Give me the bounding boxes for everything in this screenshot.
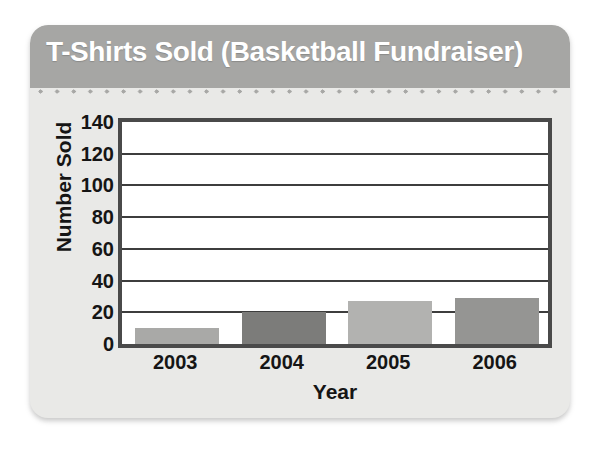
x-tick-label: 2004: [229, 352, 336, 372]
y-tick-label: 100: [68, 175, 114, 195]
y-tick-label: 0: [68, 334, 114, 354]
gridline: [122, 153, 548, 155]
gridline: [122, 248, 548, 250]
x-axis-tick-labels: 2003200420052006: [118, 352, 552, 378]
y-tick-label: 80: [68, 207, 114, 227]
bar: [242, 312, 326, 344]
y-tick-label: 60: [68, 239, 114, 259]
y-tick-label: 20: [68, 302, 114, 322]
x-tick-label: 2006: [442, 352, 549, 372]
gridline: [122, 184, 548, 186]
x-axis-title: Year: [118, 380, 552, 404]
dotted-divider: [38, 89, 562, 94]
gridline: [122, 216, 548, 218]
plot-area: [122, 122, 548, 344]
bar: [348, 301, 432, 344]
plot-frame: [118, 118, 552, 348]
chart-header-band: T-Shirts Sold (Basketball Fundraiser): [30, 25, 570, 88]
y-tick-label: 120: [68, 144, 114, 164]
bar: [135, 328, 219, 344]
chart-card: T-Shirts Sold (Basketball Fundraiser) Nu…: [30, 25, 570, 418]
bar: [455, 298, 539, 344]
y-axis-tick-labels: 140120100806040200: [64, 118, 114, 348]
x-tick-label: 2003: [122, 352, 229, 372]
y-tick-label: 140: [68, 112, 114, 132]
y-tick-label: 40: [68, 271, 114, 291]
x-tick-label: 2005: [335, 352, 442, 372]
chart-title: T-Shirts Sold (Basketball Fundraiser): [46, 36, 523, 68]
gridline: [122, 280, 548, 282]
